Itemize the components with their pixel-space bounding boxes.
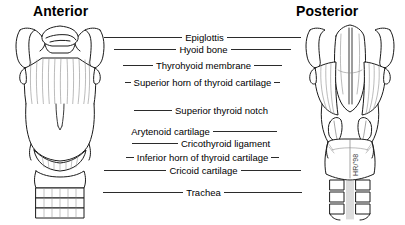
anatomy-illustration-layer: [0, 0, 405, 225]
larynx-anatomy-diagram: Anterior Posterior EpiglottisHyoid boneT…: [0, 0, 405, 225]
anterior-larynx-drawing: [16, 26, 104, 218]
posterior-larynx-drawing: [306, 25, 394, 220]
view-title-posterior: Posterior: [296, 3, 358, 19]
view-title-anterior: Anterior: [33, 3, 88, 19]
artist-watermark: HR/'98: [352, 154, 359, 176]
